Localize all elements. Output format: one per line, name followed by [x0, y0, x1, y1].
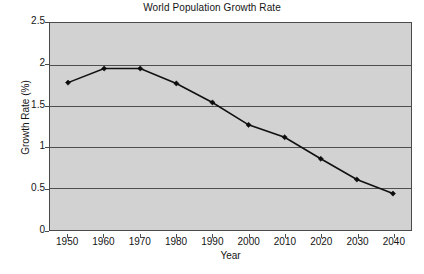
data-point-marker [65, 80, 70, 85]
x-axis-tick-labels: 1950196019701980199020002010202020302040 [0, 234, 424, 250]
chart-figure: World Population Growth Rate Growth Rate… [0, 0, 424, 274]
data-point-marker [138, 66, 143, 71]
data-point-marker [390, 191, 395, 196]
data-point-marker [102, 66, 107, 71]
x-tick-mark [249, 234, 250, 238]
y-tick-label: 2.5 [2, 16, 45, 26]
x-tick-mark [212, 234, 213, 238]
x-tick-mark [358, 234, 359, 238]
series-growth-rate [50, 23, 411, 230]
plot-area [49, 22, 412, 231]
y-tick-label: 2 [2, 58, 45, 68]
y-tick-mark [45, 231, 49, 232]
x-tick-mark [67, 234, 68, 238]
x-tick-mark [321, 234, 322, 238]
series-line [68, 69, 393, 194]
x-tick-mark [285, 234, 286, 238]
x-tick-mark [394, 234, 395, 238]
y-axis-tick-labels: 00.511.522.5 [0, 0, 45, 274]
y-tick-label: 0.5 [2, 183, 45, 193]
chart-title: World Population Growth Rate [0, 2, 424, 13]
x-axis-title: Year [49, 250, 412, 261]
y-tick-label: 1.5 [2, 100, 45, 110]
x-tick-mark [176, 234, 177, 238]
y-tick-label: 1 [2, 141, 45, 151]
x-tick-mark [103, 234, 104, 238]
x-tick-mark [140, 234, 141, 238]
